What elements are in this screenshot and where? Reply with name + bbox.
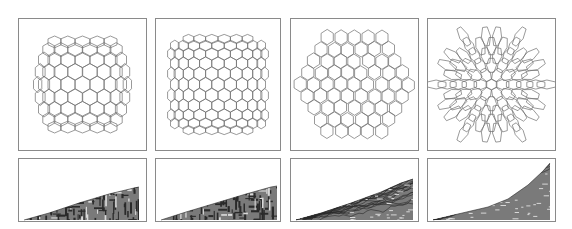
wedge-panel-2: Sorted profile, regular texture — [155, 158, 281, 222]
wedge-profile-icon — [19, 159, 146, 221]
hex-mesh-icon — [156, 19, 280, 150]
mesh-panel-star-cluster: Radial star-shaped elongated cell cluste… — [427, 18, 556, 151]
wedge-panel-4: Sorted profile, dense noisy texture — [427, 158, 556, 222]
wedge-profile-icon — [428, 159, 555, 221]
mesh-panel-squircle: Rounded-square hexagonal mesh — [155, 18, 281, 151]
hex-mesh-icon — [19, 19, 146, 150]
hex-mesh-icon — [428, 19, 555, 150]
wedge-panel-3: Sorted profile, noisy texture — [290, 158, 419, 222]
wedge-profile-icon — [156, 159, 280, 221]
wedge-panel-1: Sorted profile, regular texture — [18, 158, 147, 222]
hex-mesh-icon — [291, 19, 418, 150]
mesh-panel-hexagon-cluster: Irregular hexagon-shaped cell cluster — [290, 18, 419, 151]
wedge-profile-icon — [291, 159, 418, 221]
mesh-panel-sphere: Spherical hexagonal mesh (projected sphe… — [18, 18, 147, 151]
